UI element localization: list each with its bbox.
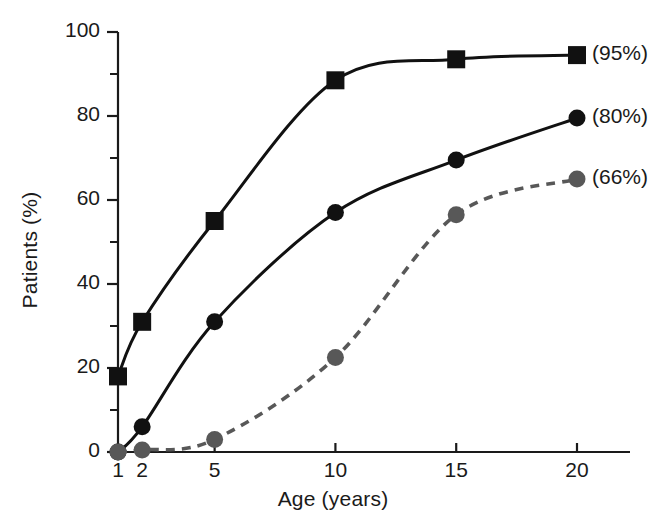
marker-square — [133, 313, 151, 331]
marker-circle — [448, 152, 465, 169]
marker-circle — [327, 204, 344, 221]
y-ticks-group — [107, 32, 118, 452]
series-label-3: (66%) — [592, 165, 648, 189]
series-line-1 — [118, 55, 577, 376]
marker-circle — [206, 313, 223, 330]
marker-square — [326, 71, 344, 89]
series-label-1: (95%) — [592, 41, 648, 65]
x-tick-label: 20 — [547, 458, 607, 482]
series-label-2: (80%) — [592, 104, 648, 128]
marker-square — [109, 367, 127, 385]
marker-circle — [134, 418, 151, 435]
y-tick-label: 40 — [0, 270, 100, 294]
series-line-3 — [118, 179, 577, 452]
x-tick-label: 10 — [305, 458, 365, 482]
x-tick-label: 2 — [112, 458, 172, 482]
marker-square — [206, 212, 224, 230]
axes-group — [118, 32, 630, 452]
marker-circle — [206, 431, 223, 448]
y-tick-label: 20 — [0, 354, 100, 378]
y-tick-label: 0 — [0, 438, 100, 462]
marker-circle — [327, 349, 344, 366]
marker-square — [568, 46, 586, 64]
marker-circle — [569, 110, 586, 127]
marker-square — [447, 50, 465, 68]
y-tick-label: 80 — [0, 102, 100, 126]
series-line-2 — [118, 118, 577, 452]
x-axis-title: Age (years) — [233, 487, 433, 511]
x-tick-label: 5 — [185, 458, 245, 482]
x-tick-label: 15 — [426, 458, 486, 482]
y-tick-label: 100 — [0, 18, 100, 42]
marker-circle — [134, 441, 151, 458]
y-tick-label: 60 — [0, 186, 100, 210]
series-group — [109, 46, 586, 460]
marker-circle — [569, 171, 586, 188]
marker-circle — [448, 206, 465, 223]
